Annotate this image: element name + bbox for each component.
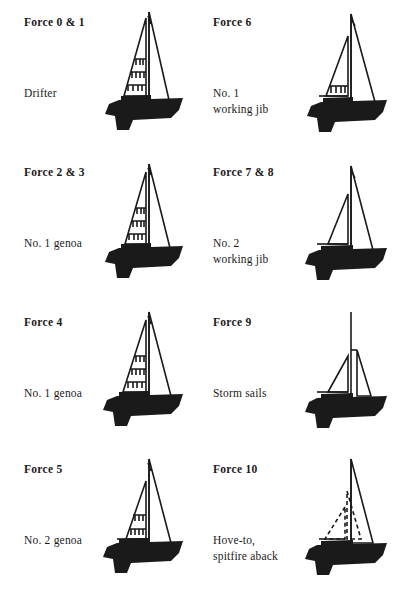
chart-cell-force-5: Force 5 No. 2 genoa bbox=[0, 447, 197, 594]
sailboat-working-jib-1-icon bbox=[295, 4, 395, 144]
sail-selection-chart: Force 0 & 1 Drifter bbox=[0, 0, 397, 594]
sail-name: No. 2 genoa bbox=[24, 533, 82, 549]
sailboat-hove-to-icon bbox=[295, 451, 395, 591]
chart-cell-force-9: Force 9 Storm sails bbox=[197, 300, 397, 447]
force-label: Force 6 bbox=[213, 16, 252, 28]
sail-name: No. 1 genoa bbox=[24, 236, 82, 252]
sail-name-line-2: spitfire aback bbox=[213, 549, 278, 565]
chart-cell-force-0-1: Force 0 & 1 Drifter bbox=[0, 0, 197, 150]
sail-name-line-1: No. 1 genoa bbox=[24, 236, 82, 252]
sail-name: No. 1 working jib bbox=[213, 86, 269, 117]
sailboat-working-jib-2-icon bbox=[295, 154, 395, 294]
sail-name-line-2: working jib bbox=[213, 252, 269, 268]
sailboat-genoa-1-icon bbox=[91, 154, 191, 294]
chart-cell-force-7-8: Force 7 & 8 No. 2 working jib bbox=[197, 150, 397, 300]
force-label: Force 0 & 1 bbox=[24, 16, 85, 28]
sail-name-line-1: No. 2 bbox=[213, 236, 269, 252]
sail-name: Drifter bbox=[24, 86, 57, 102]
sail-name-line-1: Storm sails bbox=[213, 386, 267, 402]
force-label: Force 5 bbox=[24, 463, 63, 475]
sail-name: No. 1 genoa bbox=[24, 386, 82, 402]
sail-name-line-1: No. 2 genoa bbox=[24, 533, 82, 549]
sailboat-drifter-icon bbox=[91, 4, 191, 144]
sail-name-line-1: Drifter bbox=[24, 86, 57, 102]
sail-name-line-1: No. 1 bbox=[213, 86, 269, 102]
sail-name: Storm sails bbox=[213, 386, 267, 402]
chart-cell-force-4: Force 4 No. 1 genoa bbox=[0, 300, 197, 447]
sail-name-line-1: Hove-to, bbox=[213, 533, 278, 549]
force-label: Force 4 bbox=[24, 316, 63, 328]
chart-cell-force-6: Force 6 No. 1 working jib bbox=[197, 0, 397, 150]
force-label: Force 2 & 3 bbox=[24, 166, 85, 178]
force-label: Force 7 & 8 bbox=[213, 166, 274, 178]
chart-cell-force-10: Force 10 Hove-to, spitfire aback bbox=[197, 447, 397, 594]
sail-name-line-1: No. 1 genoa bbox=[24, 386, 82, 402]
force-label: Force 9 bbox=[213, 316, 252, 328]
sailboat-genoa-1b-icon bbox=[91, 304, 191, 444]
sailboat-storm-sails-icon bbox=[295, 304, 395, 444]
sail-name: Hove-to, spitfire aback bbox=[213, 533, 278, 564]
sailboat-genoa-2-icon bbox=[91, 451, 191, 591]
sail-name: No. 2 working jib bbox=[213, 236, 269, 267]
chart-cell-force-2-3: Force 2 & 3 No. 1 genoa bbox=[0, 150, 197, 300]
sail-name-line-2: working jib bbox=[213, 102, 269, 118]
force-label: Force 10 bbox=[213, 463, 258, 475]
